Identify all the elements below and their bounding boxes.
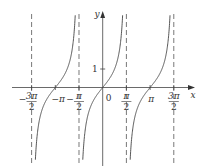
- x-tick-label-denominator: 2: [171, 102, 177, 112]
- x-tick-label-numerator: 3π: [26, 91, 39, 101]
- y-tick-label: 1: [92, 64, 98, 74]
- x-tick-label-denominator: 2: [76, 102, 82, 112]
- labels: 3π2−−ππ2−π2π3π210xy: [19, 9, 196, 112]
- y-axis-arrow-icon: [100, 11, 105, 18]
- x-tick-label-numerator: π: [75, 91, 83, 101]
- x-tick-label-numerator: 3π: [168, 91, 181, 101]
- axes: [12, 11, 195, 166]
- x-tick-label-numerator: π: [122, 91, 130, 101]
- x-tick-label: π: [147, 94, 155, 104]
- x-axis-label: x: [190, 90, 195, 100]
- x-tick-label-sign: −: [19, 94, 27, 104]
- y-axis-label: y: [93, 9, 100, 19]
- x-tick-label-denominator: 2: [29, 102, 35, 112]
- x-tick-label-sign: −: [66, 94, 74, 104]
- origin-label: 0: [106, 93, 112, 103]
- x-tick-label-denominator: 2: [124, 102, 130, 112]
- tangent-graph: 3π2−−ππ2−π2π3π210xy: [0, 0, 203, 167]
- x-tick-label: −π: [52, 94, 67, 104]
